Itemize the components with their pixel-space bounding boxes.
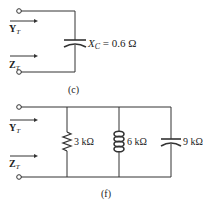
zt-label: ZT <box>9 59 21 72</box>
resistor-label: 3 kΩ <box>74 136 94 147</box>
circuit-f <box>10 105 181 180</box>
arrow-zt-icon <box>10 54 38 58</box>
circuit-diagrams: YT ZT XC = 0.6 Ω (c) <box>0 0 218 208</box>
inductor-icon <box>114 131 124 152</box>
resistor-icon <box>63 132 71 151</box>
terminal-top <box>17 105 22 110</box>
terminal-bottom <box>17 175 22 180</box>
circuit-f-labels: YT ZT 3 kΩ 6 kΩ 9 kΩ (f) <box>9 122 203 200</box>
caption-f: (f) <box>101 188 111 200</box>
circuit-c <box>10 9 86 75</box>
capacitor-c-label: XC = 0.6 Ω <box>87 37 136 51</box>
zt-label: ZT <box>9 158 21 171</box>
yt-label: YT <box>9 23 21 36</box>
capacitor-label: 9 kΩ <box>183 136 203 147</box>
terminal-top <box>17 9 22 14</box>
yt-label: YT <box>9 122 21 135</box>
circuit-c-labels: YT ZT XC = 0.6 Ω (c) <box>9 23 136 96</box>
caption-c: (c) <box>68 84 79 96</box>
inductor-label: 6 kΩ <box>127 136 147 147</box>
